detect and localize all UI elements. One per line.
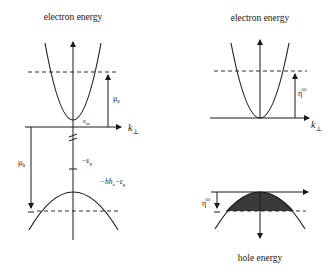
hole-energy-title: hole energy: [238, 253, 283, 263]
eta-e-label: η(0): [298, 87, 307, 98]
left-title: electron energy: [44, 12, 103, 22]
right-panel: electron energy k⊥ η(0) η(0) hole energy: [202, 13, 322, 263]
mu-h-label: μh: [18, 158, 25, 168]
band-diagram: electron energy k⊥ μe εm −εg −hhe−εg μh: [0, 0, 331, 275]
right-title: electron energy: [231, 13, 290, 23]
left-panel: electron energy k⊥ μe εm −εg −hhe−εg μh: [18, 12, 139, 240]
mu-e-label: μe: [113, 94, 120, 104]
eta-h-label: η(0): [202, 197, 211, 208]
eps-min-label: εm: [83, 117, 90, 126]
left-k-label: k⊥: [128, 122, 139, 136]
minus-eps-g-label: −εg: [82, 156, 92, 166]
hole-band-label: −hhe−εg: [100, 177, 126, 187]
right-k-label: k⊥: [311, 119, 322, 133]
